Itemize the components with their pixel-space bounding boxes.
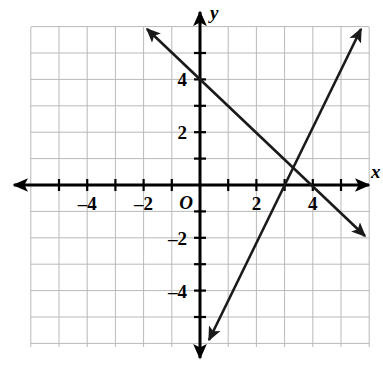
y-tick-label--2: –2	[167, 228, 187, 249]
x-tick-label--2: –2	[133, 193, 153, 214]
x-tick-label-2: 2	[252, 193, 262, 214]
x-tick-label-4: 4	[308, 193, 318, 214]
origin-label: O	[179, 192, 193, 213]
y-tick-label-2: 2	[178, 122, 188, 143]
y-axis-label: y	[208, 2, 219, 23]
y-tick-label--4: –4	[167, 281, 188, 302]
coordinate-plane: –4 –2 2 4 4 2 –2 –4 O y x	[0, 0, 383, 367]
graph-screenshot: –4 –2 2 4 4 2 –2 –4 O y x	[0, 0, 383, 367]
y-tick-label-4: 4	[178, 69, 188, 90]
x-tick-label--4: –4	[77, 193, 98, 214]
x-axis-label: x	[370, 161, 381, 182]
